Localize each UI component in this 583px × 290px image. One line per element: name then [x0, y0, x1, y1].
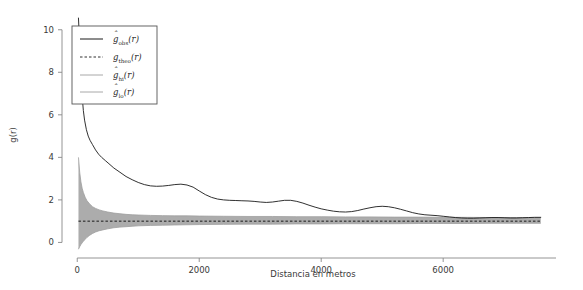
y-axis-tick-label: 8	[49, 67, 54, 77]
y-axis-tick-label: 0	[49, 237, 54, 247]
chart-figure: 0246810 0200040006000 Distancia en metro…	[0, 0, 583, 290]
y-axis-tick-label: 10	[43, 25, 54, 35]
pair-correlation-function-plot: 0246810 0200040006000 Distancia en metro…	[0, 0, 583, 290]
y-axis-tick-label: 6	[49, 110, 54, 120]
y-axis-tick-label: 4	[49, 152, 54, 162]
x-axis-tick-label: 0	[75, 265, 80, 275]
y-axis-title: g(r)	[8, 127, 18, 143]
x-axis-title: Distancia en metros	[270, 269, 356, 279]
x-axis-tick-label: 6000	[432, 265, 454, 275]
chart-legend: ˆgobs(r)gtheo(r)ˆghi(r)ˆglo(r)	[72, 26, 157, 104]
x-axis-tick-label: 2000	[188, 265, 210, 275]
y-axis-tick-label: 2	[49, 195, 54, 205]
